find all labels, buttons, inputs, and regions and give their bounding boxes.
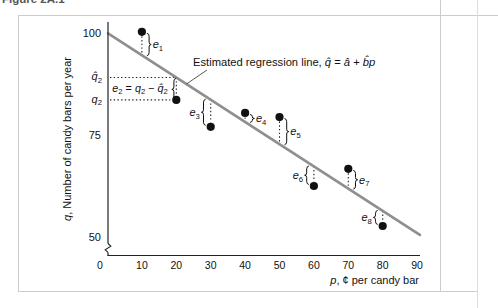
data-point-e6 — [310, 182, 318, 190]
y-axis-title: q, Number of candy bars per year — [61, 57, 73, 221]
x-tick-label-80: 80 — [377, 259, 389, 271]
x-tick-label-70: 70 — [342, 259, 354, 271]
data-point-e2 — [172, 96, 180, 104]
regression-line-annotation: Estimated regression line, q̂ = â + b̂p — [193, 55, 375, 68]
x-tick-label-30: 30 — [205, 259, 217, 271]
data-point-e3 — [207, 123, 215, 131]
y-tick-label-75: 75 — [89, 129, 101, 141]
regression-residuals-chart: Estimated regression line, q̂ = â + b̂p0… — [0, 0, 498, 308]
data-point-e1 — [138, 28, 146, 36]
x-tick-label-10: 10 — [136, 259, 148, 271]
data-point-e8 — [379, 222, 387, 230]
data-point-e5 — [275, 113, 283, 121]
x-axis-title: p, ¢ per candy bar — [329, 274, 419, 286]
figure-caption-text: Figure 2A.1 — [2, 0, 122, 6]
x-tick-label-50: 50 — [274, 259, 286, 271]
x-tick-label-0: 0 — [97, 259, 103, 271]
y-tick-label-50: 50 — [89, 231, 101, 243]
data-point-e7 — [344, 165, 352, 173]
data-point-e4 — [241, 109, 249, 117]
y-tick-label-100: 100 — [83, 27, 101, 39]
x-tick-label-60: 60 — [308, 259, 320, 271]
figure-caption-clipped: Figure 2A.1 — [2, 0, 122, 6]
page: Figure 2A.1 Estimated regression line, q… — [0, 0, 498, 308]
x-tick-label-40: 40 — [239, 259, 251, 271]
x-tick-label-90: 90 — [411, 259, 423, 271]
x-tick-label-20: 20 — [170, 259, 182, 271]
